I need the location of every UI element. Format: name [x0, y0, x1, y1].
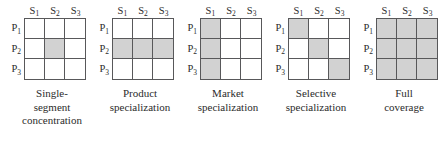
grid-block: S1S2S3P1P2P3	[358, 0, 438, 80]
row-header-column: P1P2P3	[6, 18, 24, 80]
panel-product-specialization: S1S2S3P1P2P3Productspecialization	[90, 0, 178, 114]
cell-P3-S1	[289, 59, 309, 79]
column-header-S1: S1	[376, 6, 397, 19]
column-header-S2: S2	[309, 6, 330, 19]
cell-P3-S3	[241, 59, 261, 79]
matrix	[112, 18, 174, 80]
row-header-P1: P1	[358, 23, 376, 34]
row-header-P3: P3	[182, 64, 200, 75]
caption-line: Selective	[266, 87, 366, 101]
row-header-P2: P2	[182, 44, 200, 55]
cell-P1-S2	[133, 19, 153, 39]
row-header-P3: P3	[358, 64, 376, 75]
matrix	[288, 18, 350, 80]
cell-P2-S2	[309, 39, 329, 59]
cell-P1-S3	[241, 19, 261, 39]
panel-caption: Single-segmentconcentration	[2, 87, 102, 128]
cell-P3-S3	[65, 59, 85, 79]
cell-P1-S3	[65, 19, 85, 39]
row-header-P2: P2	[270, 44, 288, 55]
column-header-S1: S1	[24, 6, 45, 19]
caption-line: specialization	[178, 101, 278, 115]
cell-P2-S1	[25, 39, 45, 59]
row-header-column: P1P2P3	[270, 18, 288, 80]
cell-P2-S3	[241, 39, 261, 59]
row-header-P2: P2	[6, 44, 24, 55]
cell-P2-S3	[153, 39, 173, 59]
cell-P1-S1	[377, 19, 397, 39]
row-header-P2: P2	[358, 44, 376, 55]
caption-line: coverage	[354, 101, 440, 115]
column-header-S1: S1	[288, 6, 309, 19]
grid-block: S1S2S3P1P2P3	[182, 0, 262, 80]
cell-P1-S1	[201, 19, 221, 39]
cell-P3-S3	[329, 59, 349, 79]
cell-P2-S1	[201, 39, 221, 59]
cell-P1-S2	[45, 19, 65, 39]
panel-caption: Selectivespecialization	[266, 87, 366, 114]
panel-caption: Productspecialization	[90, 87, 190, 114]
row-header-column: P1P2P3	[94, 18, 112, 80]
cell-P3-S3	[417, 59, 437, 79]
cell-P3-S3	[153, 59, 173, 79]
cell-P2-S2	[397, 39, 417, 59]
cell-P2-S3	[329, 39, 349, 59]
cell-P3-S1	[377, 59, 397, 79]
cell-P3-S2	[309, 59, 329, 79]
cell-P2-S3	[417, 39, 437, 59]
cell-P1-S1	[289, 19, 309, 39]
cell-P3-S1	[25, 59, 45, 79]
grid-block: S1S2S3P1P2P3	[6, 0, 86, 80]
caption-line: specialization	[90, 101, 190, 115]
panel-selective-specialization: S1S2S3P1P2P3Selectivespecialization	[266, 0, 354, 114]
row-header-P1: P1	[182, 23, 200, 34]
row-header-column: P1P2P3	[182, 18, 200, 80]
caption-line: segment	[2, 101, 102, 115]
column-header-S3: S3	[417, 6, 438, 19]
cell-P3-S2	[133, 59, 153, 79]
caption-line: Product	[90, 87, 190, 101]
row-header-column: P1P2P3	[358, 18, 376, 80]
cell-P1-S3	[417, 19, 437, 39]
cell-P2-S2	[133, 39, 153, 59]
column-header-S3: S3	[241, 6, 262, 19]
matrix	[200, 18, 262, 80]
column-header-row: S1S2S3	[200, 0, 262, 18]
cell-P3-S1	[201, 59, 221, 79]
grid-block: S1S2S3P1P2P3	[94, 0, 174, 80]
cell-P1-S3	[153, 19, 173, 39]
column-header-S2: S2	[133, 6, 154, 19]
cell-P2-S2	[221, 39, 241, 59]
row-header-P1: P1	[94, 23, 112, 34]
column-header-row: S1S2S3	[376, 0, 438, 18]
cell-P1-S2	[221, 19, 241, 39]
column-header-row: S1S2S3	[112, 0, 174, 18]
matrix	[24, 18, 86, 80]
caption-line: specialization	[266, 101, 366, 115]
cell-P1-S3	[329, 19, 349, 39]
cell-P3-S2	[397, 59, 417, 79]
column-header-S3: S3	[65, 6, 86, 19]
cell-P2-S1	[113, 39, 133, 59]
column-header-S2: S2	[45, 6, 66, 19]
target-market-selection-figure: S1S2S3P1P2P3Single-segmentconcentrationS…	[0, 0, 440, 145]
cell-P1-S1	[113, 19, 133, 39]
row-header-P3: P3	[94, 64, 112, 75]
panel-full-coverage: S1S2S3P1P2P3Fullcoverage	[354, 0, 440, 114]
panel-caption: Marketspecialization	[178, 87, 278, 114]
cell-P3-S1	[113, 59, 133, 79]
cell-P1-S2	[397, 19, 417, 39]
row-header-P2: P2	[94, 44, 112, 55]
row-header-P1: P1	[270, 23, 288, 34]
panel-market-specialization: S1S2S3P1P2P3Marketspecialization	[178, 0, 266, 114]
caption-line: Market	[178, 87, 278, 101]
cell-P3-S2	[221, 59, 241, 79]
cell-P1-S1	[25, 19, 45, 39]
caption-line: Single-	[2, 87, 102, 101]
column-header-row: S1S2S3	[24, 0, 86, 18]
cell-P2-S1	[377, 39, 397, 59]
column-header-S2: S2	[397, 6, 418, 19]
row-header-P3: P3	[6, 64, 24, 75]
cell-P2-S3	[65, 39, 85, 59]
column-header-S2: S2	[221, 6, 242, 19]
